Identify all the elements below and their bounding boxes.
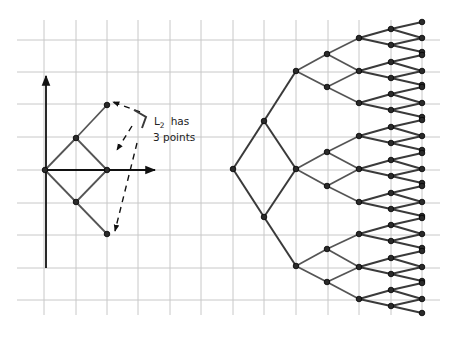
tree-edge (391, 153, 422, 160)
tree-edge (391, 251, 422, 258)
lattice-point (104, 231, 110, 237)
tree-edge (264, 169, 296, 217)
lattice-point (42, 167, 48, 173)
tree-edge (327, 234, 359, 249)
lattice-edge (76, 138, 107, 170)
tree-edge (327, 54, 359, 71)
tree-node (388, 59, 394, 65)
tree-edge (391, 306, 422, 313)
tree-edge (391, 62, 422, 71)
tree-node (356, 199, 362, 205)
tree-node (324, 149, 330, 155)
tree-edge (391, 38, 422, 45)
dashed-arrow (117, 126, 132, 150)
tree-node (419, 248, 425, 254)
tree-node (419, 215, 425, 221)
tree-edge (391, 193, 422, 202)
tree-node (419, 183, 425, 189)
tree-edge (327, 87, 359, 103)
lattice-point (104, 102, 110, 108)
tree-edge (391, 160, 422, 169)
tree-edge (391, 45, 422, 52)
tree-node (419, 280, 425, 286)
tree-node (388, 140, 394, 146)
tree-edge (391, 209, 422, 216)
tree-node (419, 19, 425, 25)
tree-node (356, 166, 362, 172)
tree-node (356, 35, 362, 41)
tree-edge (391, 225, 422, 234)
tree-node (324, 279, 330, 285)
tree-edge (327, 282, 359, 299)
tree-node (388, 222, 394, 228)
tree-edge (391, 258, 422, 267)
tree-edge (391, 55, 422, 62)
tree-node (356, 100, 362, 106)
tree-node (356, 68, 362, 74)
dashed-arrow (115, 143, 137, 231)
tree-node (419, 264, 425, 270)
tree-edge (391, 143, 422, 150)
tree-node (388, 42, 394, 48)
tree-node (230, 166, 236, 172)
tree-node (356, 264, 362, 270)
tree-node (419, 100, 425, 106)
tree-node (293, 68, 299, 74)
tree-edge (359, 193, 391, 202)
tree-edge (233, 121, 264, 169)
tree-node (388, 107, 394, 113)
annotation-line2: 3 points (153, 131, 195, 143)
tree-edge (327, 267, 359, 282)
tree-node (388, 255, 394, 261)
tree-node (356, 296, 362, 302)
tree-node (388, 173, 394, 179)
tree-edge (359, 258, 391, 267)
tree-node (356, 133, 362, 139)
tree-node (388, 26, 394, 32)
tree-edge (391, 78, 422, 85)
tree-node (419, 117, 425, 123)
tree-edge (391, 94, 422, 103)
lattice-edge (76, 202, 107, 234)
tree-node (324, 246, 330, 252)
tree-edge (359, 127, 391, 136)
tree-edge (327, 71, 359, 87)
tree-edge (391, 127, 422, 136)
tree-node (419, 231, 425, 237)
tree-edge (264, 217, 296, 266)
tree-edge (391, 283, 422, 290)
tree-edge (391, 120, 422, 127)
tree-edge (391, 87, 422, 94)
tree-edge (359, 29, 391, 38)
lattice-point (104, 167, 110, 173)
lattice-edge (45, 170, 76, 202)
tree-node (261, 214, 267, 220)
tree-edge (264, 121, 296, 169)
tree-edge (391, 274, 422, 281)
tree-edge (391, 176, 422, 183)
tree-node (293, 263, 299, 269)
tree-node (388, 238, 394, 244)
lattice-edge (76, 105, 107, 138)
tree-edge (359, 290, 391, 299)
tree-edge (359, 160, 391, 169)
tree-node (419, 310, 425, 316)
tree-edge (391, 29, 422, 38)
tree-node (388, 124, 394, 130)
tree-edge (391, 22, 422, 29)
tree-edge (391, 186, 422, 193)
tree-edge (391, 241, 422, 248)
tree-node (356, 231, 362, 237)
annotation: L2has 3 points (113, 102, 195, 231)
tree-node (388, 75, 394, 81)
tree-node (419, 150, 425, 156)
tree-edge (359, 62, 391, 71)
lattice-edge (45, 138, 76, 170)
tree-edge (391, 110, 422, 117)
annotation-line1: L2has (154, 115, 189, 130)
tree-node (419, 84, 425, 90)
tree-node (388, 157, 394, 163)
arrow-head-icon (134, 110, 146, 128)
tree-node (419, 199, 425, 205)
tree-edge (327, 249, 359, 267)
